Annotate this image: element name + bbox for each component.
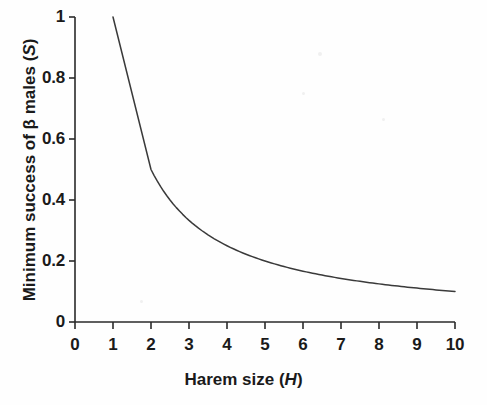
data-series-line	[113, 17, 455, 292]
x-axis-title-suffix: )	[297, 370, 303, 389]
x-axis-title-prefix: Harem size (	[184, 370, 284, 389]
y-axis-title: Minimum success of β males (S)	[20, 5, 40, 335]
y-axis-title-suffix: )	[20, 39, 39, 45]
x-axis-ticks	[75, 322, 455, 329]
y-axis-ticks	[69, 17, 75, 322]
chart-figure: 00.20.40.60.81 012345678910 Harem size (…	[0, 0, 487, 405]
y-axis-title-variable: S	[20, 44, 39, 55]
x-tick-label: 10	[430, 335, 480, 355]
x-axis-title: Harem size (H)	[0, 370, 487, 390]
x-axis-title-variable: H	[285, 370, 297, 389]
y-axis-title-prefix: Minimum success of β males (	[20, 56, 39, 302]
